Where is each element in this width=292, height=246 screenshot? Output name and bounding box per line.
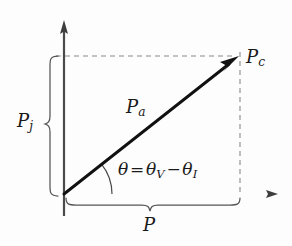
theta-i-base: θ xyxy=(182,159,192,179)
y-axis xyxy=(60,20,68,216)
diagram-canvas xyxy=(0,0,292,246)
theta-v-subscript: V xyxy=(156,167,165,181)
label-reactive-power-subscript: j xyxy=(29,119,33,133)
label-angle-equation: θ=θV−θI xyxy=(118,161,197,181)
power-triangle-figure: Pc Pa Pj P θ=θV−θI xyxy=(0,0,292,246)
theta-i-subscript: I xyxy=(193,167,198,181)
minus-sign: − xyxy=(165,159,183,179)
theta-v-base: θ xyxy=(146,159,156,179)
label-complex-power-subscript: c xyxy=(258,55,265,69)
label-reactive-power-base: P xyxy=(17,110,29,131)
x-axis xyxy=(6,190,278,198)
label-reactive-power: Pj xyxy=(17,112,33,133)
real-power-brace xyxy=(66,198,240,211)
equals-sign: = xyxy=(128,159,146,179)
label-apparent-power-base: P xyxy=(126,96,138,117)
theta-symbol: θ xyxy=(118,159,128,179)
label-apparent-power: Pa xyxy=(126,98,146,119)
reactive-power-brace xyxy=(45,56,58,196)
label-complex-power-base: P xyxy=(246,46,258,67)
label-real-power: P xyxy=(143,216,155,234)
label-complex-power: Pc xyxy=(246,48,265,69)
label-apparent-power-subscript: a xyxy=(138,105,146,119)
label-real-power-base: P xyxy=(143,214,155,235)
angle-arc xyxy=(102,164,113,194)
